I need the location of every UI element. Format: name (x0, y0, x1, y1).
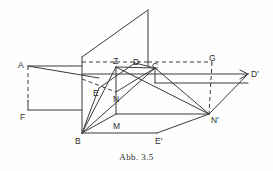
vertex-label-F: F (20, 113, 25, 122)
vertex-label-A: A (18, 61, 24, 70)
arrow-head-Dp-upper (240, 70, 248, 74)
Z-to-C (116, 67, 155, 68)
A-to-M-ray (28, 66, 99, 78)
figure-caption: Abb. 3.5 (0, 152, 273, 162)
vertex-label-Dp: D' (251, 70, 259, 79)
vertex-label-Np: N' (211, 116, 219, 125)
dashed-lines-group (28, 62, 212, 114)
G-vertical-dashed (209, 62, 212, 114)
geometry-figure: AFBEZNMDCGD'N'E' Abb. 3.5 (0, 0, 273, 171)
vertex-label-C: C (152, 62, 158, 71)
Np-to-Dp (209, 74, 248, 114)
A-ray-dashed-to-N (82, 79, 116, 92)
vertex-label-M: M (113, 122, 120, 131)
figure-canvas (0, 0, 273, 171)
vertex-label-N: N (113, 95, 119, 104)
vertex-label-G: G (209, 54, 216, 63)
vertex-label-E: E (93, 89, 99, 98)
vertex-label-B: B (75, 137, 81, 146)
Ep-to-Np (157, 114, 209, 133)
vertex-label-Ep: E' (155, 137, 163, 146)
vertex-label-Z: Z (113, 57, 118, 66)
vertex-label-D: D (133, 58, 139, 67)
plane-top-slant (82, 10, 148, 57)
